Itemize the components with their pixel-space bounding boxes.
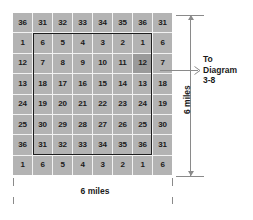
section-cell: 20 [53, 95, 72, 114]
section-cell: 32 [53, 13, 72, 32]
section-cell: 23 [113, 95, 132, 114]
diagram-reference-line-1: To [203, 54, 253, 65]
section-cell: 10 [93, 54, 112, 73]
section-cell: 15 [93, 74, 112, 93]
section-cell: 31 [33, 13, 52, 32]
section-cell: 34 [93, 135, 112, 154]
section-cell: 36 [133, 135, 152, 154]
section-cell: 36 [13, 13, 32, 32]
section-cell: 36 [13, 135, 32, 154]
leader-line [160, 70, 198, 71]
section-cell: 5 [53, 33, 72, 52]
section-cell: 16 [73, 74, 92, 93]
section-cell: 19 [33, 95, 52, 114]
section-cell: 31 [153, 135, 172, 154]
vertical-dimension-label: 6 miles [182, 54, 192, 114]
section-cell: 29 [53, 115, 72, 134]
section-cell: 14 [113, 74, 132, 93]
section-cell: 3 [93, 156, 112, 175]
section-cell: 21 [73, 95, 92, 114]
section-cell: 35 [113, 135, 132, 154]
horizontal-dimension-label: 6 miles [0, 186, 190, 197]
section-cell: 24 [133, 95, 152, 114]
section-cell: 31 [153, 13, 172, 32]
section-cell: 6 [33, 156, 52, 175]
diagram-canvas: 3631323334353631165432161278910111271318… [0, 0, 253, 220]
section-cell: 13 [133, 74, 152, 93]
section-cell: 12 [13, 54, 32, 73]
section-cell: 22 [93, 95, 112, 114]
section-cell: 27 [93, 115, 112, 134]
section-cell: 31 [33, 135, 52, 154]
section-cell: 9 [73, 54, 92, 73]
section-cell: 2 [113, 33, 132, 52]
diagram-reference-line-3: 3-8 [203, 75, 253, 86]
section-cell: 18 [153, 74, 172, 93]
section-cell: 30 [33, 115, 52, 134]
section-cell: 7 [33, 54, 52, 73]
section-cell: 2 [113, 156, 132, 175]
section-cell: 8 [53, 54, 72, 73]
section-cell: 17 [53, 74, 72, 93]
section-cell: 1 [133, 156, 152, 175]
section-cell: 18 [33, 74, 52, 93]
section-cell: 33 [73, 13, 92, 32]
section-cell: 6 [33, 33, 52, 52]
horizontal-dimension-label-text: 6 miles [76, 186, 115, 196]
section-cell: 33 [73, 135, 92, 154]
diagram-reference-line-2: Diagram [203, 65, 253, 76]
section-cell: 3 [93, 33, 112, 52]
section-cell: 1 [13, 33, 32, 52]
section-cell: 34 [93, 13, 112, 32]
arrow-down-icon [188, 171, 194, 176]
diagram-reference-note: To Diagram 3-8 [203, 54, 253, 86]
section-cell: 4 [73, 33, 92, 52]
dimension-extension-line-bottom [176, 176, 204, 177]
section-grid-container: 3631323334353631165432161278910111271318… [13, 13, 172, 175]
section-cell: 6 [153, 156, 172, 175]
section-cell: 5 [53, 156, 72, 175]
section-cell: 26 [113, 115, 132, 134]
section-cell: 36 [133, 13, 152, 32]
section-grid: 3631323334353631165432161278910111271318… [13, 13, 172, 175]
section-cell: 13 [13, 74, 32, 93]
section-cell: 35 [113, 13, 132, 32]
section-cell: 32 [53, 135, 72, 154]
section-cell: 1 [13, 156, 32, 175]
arrow-right-icon [194, 66, 201, 75]
section-cell: 25 [13, 115, 32, 134]
section-cell: 28 [73, 115, 92, 134]
arrow-up-icon [188, 15, 194, 20]
section-cell: 1 [133, 33, 152, 52]
section-cell: 11 [113, 54, 132, 73]
section-cell: 4 [73, 156, 92, 175]
section-cell: 19 [153, 95, 172, 114]
section-cell: 12 [133, 54, 152, 73]
section-cell: 30 [153, 115, 172, 134]
section-cell: 25 [133, 115, 152, 134]
section-cell: 6 [153, 33, 172, 52]
section-cell: 24 [13, 95, 32, 114]
